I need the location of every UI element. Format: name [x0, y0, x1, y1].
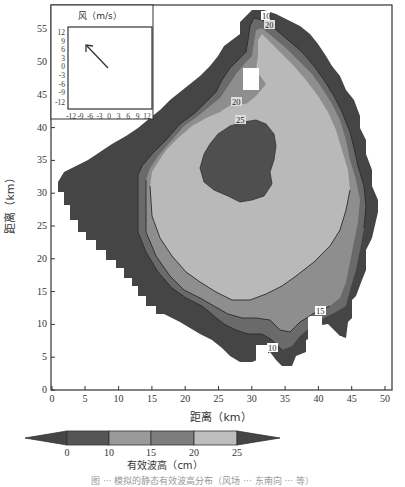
x-tick-labels: 0 5 10 15 20 25 30 35 40 45 50	[50, 393, 391, 404]
svg-text:35: 35	[280, 393, 290, 404]
colorbar: 0 10 15 20 25 有效波高（cm）	[25, 431, 280, 471]
svg-text:-12: -12	[55, 98, 65, 107]
svg-text:0: 0	[65, 447, 70, 458]
svg-text:10: 10	[37, 318, 47, 329]
svg-text:35: 35	[37, 154, 47, 165]
island-south-1	[256, 345, 268, 361]
contour-label: 20	[265, 20, 274, 30]
svg-text:9: 9	[136, 112, 140, 121]
svg-text:40: 40	[37, 122, 47, 133]
svg-text:50: 50	[380, 393, 390, 404]
svg-text:55: 55	[37, 23, 47, 34]
svg-text:20: 20	[37, 253, 47, 264]
svg-text:30: 30	[247, 393, 257, 404]
svg-text:25: 25	[214, 393, 224, 404]
contour-label: 15	[316, 306, 325, 316]
svg-text:40: 40	[313, 393, 323, 404]
wind-inset: 风（m/s） 12 9 6 3 0 -3 -6 -9 -12 -12 -9 -6…	[51, 5, 153, 121]
svg-text:25: 25	[37, 220, 47, 231]
colorbar-title: 有效波高（cm）	[127, 459, 202, 471]
y-axis-title: 距离（km）	[3, 172, 17, 233]
figure-caption: 图 ··· 模拟的静态有效波高分布（风场 ··· 东南向 ··· 等）	[0, 474, 405, 487]
inset-title: 风（m/s）	[78, 11, 122, 21]
svg-text:-9: -9	[59, 88, 65, 97]
svg-text:45: 45	[347, 393, 357, 404]
svg-text:20: 20	[180, 393, 190, 404]
svg-text:12: 12	[143, 112, 151, 121]
svg-text:10: 10	[114, 393, 124, 404]
svg-text:25: 25	[232, 447, 242, 458]
island-south-3	[326, 336, 342, 366]
svg-text:0: 0	[42, 384, 47, 395]
island-south-2	[308, 316, 322, 346]
y-tick-labels: 0 5 10 15 20 25 30 35 40 45 50 55	[37, 23, 47, 395]
svg-text:-9: -9	[77, 112, 83, 121]
svg-text:5: 5	[42, 351, 47, 362]
svg-text:0: 0	[107, 112, 111, 121]
svg-text:3: 3	[117, 112, 121, 121]
contour-label: 10	[268, 343, 277, 353]
x-axis-title: 距离（km）	[190, 410, 251, 424]
contour-label: 25	[236, 115, 245, 125]
svg-text:5: 5	[83, 393, 88, 404]
contour-label: 20	[232, 97, 241, 107]
svg-text:-6: -6	[87, 112, 93, 121]
svg-text:20: 20	[189, 447, 199, 458]
svg-text:30: 30	[37, 187, 47, 198]
svg-text:6: 6	[126, 112, 130, 121]
svg-text:10: 10	[104, 447, 114, 458]
svg-text:-3: -3	[96, 112, 102, 121]
svg-text:0: 0	[50, 393, 55, 404]
svg-text:-12: -12	[66, 112, 76, 121]
svg-text:45: 45	[37, 89, 47, 100]
svg-text:15: 15	[147, 393, 157, 404]
island-north	[243, 68, 259, 90]
svg-text:50: 50	[37, 56, 47, 67]
svg-text:15: 15	[146, 447, 156, 458]
svg-text:15: 15	[37, 286, 47, 297]
